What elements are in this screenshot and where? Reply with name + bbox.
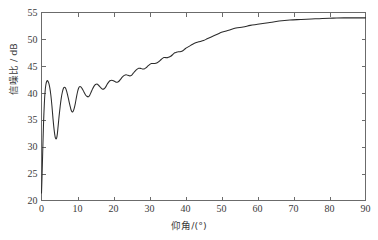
chart-figure: 0102030405060708090 2025303540455055 信噪比… [0, 0, 378, 240]
x-tick-label: 90 [361, 203, 371, 214]
y-tick-label: 40 [28, 88, 38, 99]
x-tick-label: 50 [217, 203, 227, 214]
y-tick-labels: 2025303540455055 [28, 7, 38, 206]
x-tick-label: 40 [181, 203, 191, 214]
y-axis-title: 信噪比 / dB [6, 24, 20, 114]
x-tick-label: 30 [145, 203, 155, 214]
y-tick-label: 45 [28, 61, 38, 72]
x-tick-labels: 0102030405060708090 [39, 203, 371, 214]
x-axis-title: 仰角/(°) [0, 218, 378, 232]
y-tick-label: 55 [28, 7, 38, 18]
x-tick-label: 60 [253, 203, 263, 214]
y-tick-label: 30 [28, 141, 38, 152]
y-tick-label: 20 [28, 195, 38, 206]
y-tick-label: 35 [28, 114, 38, 125]
snr-curve [42, 18, 366, 193]
y-tick-label: 50 [28, 34, 38, 45]
x-tick-label: 70 [289, 203, 299, 214]
y-axis-title-wrapper: 信噪比 / dB [6, 24, 20, 114]
x-tick-label: 20 [109, 203, 119, 214]
x-tick-label: 10 [73, 203, 83, 214]
y-tick-label: 25 [28, 168, 38, 179]
x-tick-label: 80 [325, 203, 335, 214]
x-tick-label: 0 [39, 203, 44, 214]
plot-canvas: 0102030405060708090 2025303540455055 [0, 0, 378, 240]
